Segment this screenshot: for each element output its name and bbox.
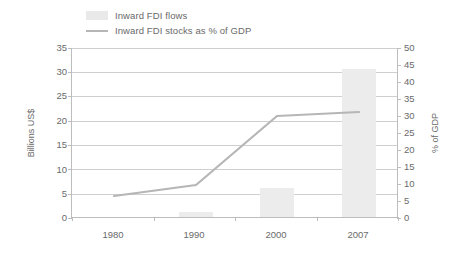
right-tick-0: 0 — [404, 213, 440, 223]
left-tick-15: 15 — [31, 140, 67, 150]
left-tick-5: 5 — [31, 189, 67, 199]
left-tick-25: 25 — [31, 91, 67, 101]
bar-swatch-icon — [86, 11, 108, 20]
line-swatch-icon — [86, 30, 108, 32]
right-tick-25: 25 — [404, 128, 440, 138]
legend-label-stocks: Inward FDI stocks as % of GDP — [115, 25, 251, 36]
x-tick-1980: 1980 — [83, 229, 143, 240]
line-series-fdi-stocks-pct-gdp — [72, 48, 399, 218]
plot-area — [71, 48, 398, 218]
right-tick-30: 30 — [404, 111, 440, 121]
left-tick-35: 35 — [31, 43, 67, 53]
left-tick-30: 30 — [31, 67, 67, 77]
right-tick-40: 40 — [404, 77, 440, 87]
legend-item-inward-fdi-stocks: Inward FDI stocks as % of GDP — [86, 23, 346, 38]
x-tick-2007: 2007 — [328, 229, 388, 240]
right-tick-50: 50 — [404, 43, 440, 53]
legend-label-flows: Inward FDI flows — [115, 10, 187, 21]
left-tick-20: 20 — [31, 116, 67, 126]
right-tick-35: 35 — [404, 94, 440, 104]
legend-item-inward-fdi-flows: Inward FDI flows — [86, 8, 346, 23]
chart-legend: Inward FDI flows Inward FDI stocks as % … — [86, 8, 346, 38]
right-tick-10: 10 — [404, 179, 440, 189]
right-tick-45: 45 — [404, 60, 440, 70]
right-tick-20: 20 — [404, 145, 440, 155]
fdi-chart-figure: Inward FDI flows Inward FDI stocks as % … — [0, 0, 461, 258]
right-tick-15: 15 — [404, 162, 440, 172]
right-axis-tick-labels: 0 5 10 15 20 25 30 35 40 45 50 — [404, 0, 440, 258]
right-tick-5: 5 — [404, 196, 440, 206]
left-tick-10: 10 — [31, 165, 67, 175]
x-tick-2000: 2000 — [246, 229, 306, 240]
left-axis-tick-labels: 0 5 10 15 20 25 30 35 — [31, 0, 67, 258]
left-tick-0: 0 — [31, 213, 67, 223]
x-tick-1990: 1990 — [164, 229, 224, 240]
